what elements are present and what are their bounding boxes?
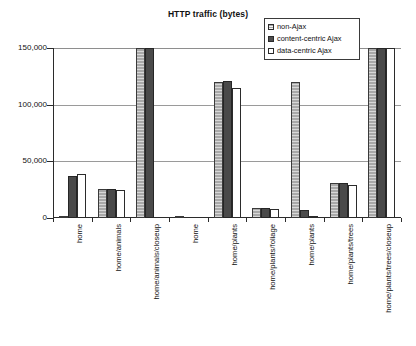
x-tick: [53, 218, 54, 222]
bar: [291, 82, 300, 218]
bar: [386, 48, 395, 218]
bar-group: [59, 48, 86, 218]
x-tick-label: home: [76, 224, 84, 243]
bar-group: [98, 48, 125, 218]
legend-item-non-ajax: non-Ajax: [268, 21, 356, 32]
bar: [77, 174, 86, 218]
x-tick: [92, 218, 93, 222]
legend-label-non-ajax: non-Ajax: [277, 23, 306, 31]
bar: [98, 189, 107, 218]
http-traffic-bar-chart: HTTP traffic (bytes) non-Ajax content-ce…: [0, 0, 416, 346]
x-tick-label: home/plants/trees/closeup: [385, 224, 393, 313]
x-tick-label: home/animals/closeup: [153, 224, 161, 300]
legend-swatch-icon-non-ajax: [268, 24, 274, 30]
bar: [377, 48, 386, 218]
bar-group: [291, 48, 318, 218]
bar: [330, 183, 339, 218]
bar: [309, 216, 318, 218]
bar-series-container: [53, 48, 401, 218]
bar-group: [368, 48, 395, 218]
bar: [175, 216, 184, 218]
legend-item-content-centric-ajax: content-centric Ajax: [268, 33, 356, 44]
bar: [232, 88, 241, 218]
bar: [116, 190, 125, 218]
bar: [68, 176, 77, 218]
bar: [368, 48, 377, 218]
y-tick-label-150000: 150,000: [0, 43, 47, 52]
bar-group: [330, 48, 357, 218]
x-tick-label: home/plants: [231, 224, 239, 265]
x-tick: [130, 218, 131, 222]
legend-item-data-centric-ajax: data-centric Ajax: [268, 45, 356, 56]
bar-group: [252, 48, 279, 218]
bar: [300, 210, 309, 218]
x-tick: [285, 218, 286, 222]
x-tick-label: home/plants: [308, 224, 316, 265]
x-tick-label: home/plants/foliage: [269, 224, 277, 290]
bar: [136, 48, 145, 218]
legend-label-data-centric-ajax: data-centric Ajax: [277, 47, 332, 55]
bar: [270, 209, 279, 218]
chart-legend: non-Ajax content-centric Ajax data-centr…: [264, 18, 360, 60]
legend-swatch-icon-data-centric-ajax: [268, 48, 274, 54]
bar: [223, 81, 232, 218]
bar: [348, 185, 357, 218]
y-tick-label-0: 0: [0, 213, 47, 222]
bar: [339, 183, 348, 218]
x-tick: [169, 218, 170, 222]
bar: [252, 208, 261, 218]
x-tick-label: home: [192, 224, 200, 243]
bar: [59, 216, 68, 218]
x-tick: [246, 218, 247, 222]
bar: [107, 189, 116, 218]
bar-group: [175, 48, 202, 218]
bar-group: [214, 48, 241, 218]
legend-label-content-centric-ajax: content-centric Ajax: [277, 35, 342, 43]
x-tick: [362, 218, 363, 222]
x-tick-label: home/animals: [115, 224, 123, 271]
bar: [261, 208, 270, 218]
x-tick-label: home/plants/trees: [347, 224, 355, 284]
legend-swatch-icon-content-centric-ajax: [268, 36, 274, 42]
x-tick: [324, 218, 325, 222]
bar: [214, 82, 223, 218]
x-tick: [401, 218, 402, 222]
x-tick: [208, 218, 209, 222]
y-tick-label-50000: 50,000: [0, 156, 47, 165]
y-tick-label-100000: 100,000: [0, 100, 47, 109]
bar-group: [136, 48, 163, 218]
bar: [145, 48, 154, 218]
